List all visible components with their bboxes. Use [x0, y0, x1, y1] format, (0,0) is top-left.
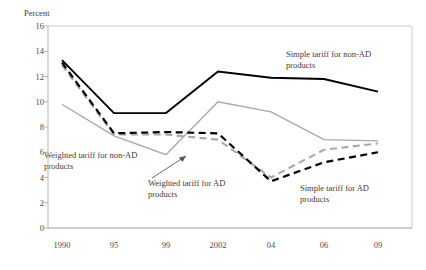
chart-canvas: [0, 0, 426, 270]
annotation-arrow-weighted-ad: [152, 156, 186, 178]
chart-figure: Percent 16 14 12 10 8 6 4 2 0 1990 95 99…: [0, 0, 426, 270]
series-simple-tariff-non-ad: [62, 60, 378, 113]
y-axis-ticks: [44, 26, 48, 228]
